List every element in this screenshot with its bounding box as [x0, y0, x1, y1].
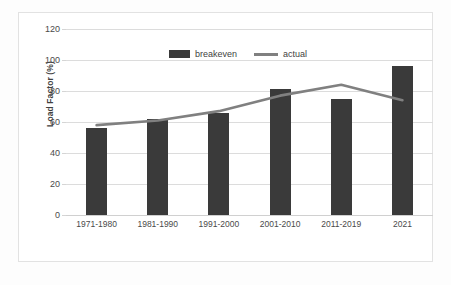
x-tick-label-2001-2010: 2001-2010: [260, 219, 301, 229]
gridline-0: [66, 215, 433, 216]
x-tick-label-1971-1980: 1971-1980: [76, 219, 117, 229]
y-tickmark-40: [62, 153, 66, 154]
y-tickmark-0: [62, 215, 66, 216]
bar-2001-2010: [270, 89, 291, 215]
gridline-80: [66, 91, 433, 92]
y-tick-label-0: 0: [55, 210, 60, 220]
chart-plot-frame: Load Factor (%) 120100806040200 1971-198…: [18, 12, 433, 262]
x-tick-label-2021: 2021: [393, 219, 412, 229]
y-tickmark-60: [62, 122, 66, 123]
y-tick-label-60: 60: [50, 117, 60, 127]
legend-item-actual: actual: [254, 49, 307, 59]
y-tick-label-100: 100: [45, 55, 60, 65]
legend-bar-swatch-icon: [169, 50, 190, 58]
bar-1971-1980: [86, 128, 107, 215]
y-tick-label-40: 40: [50, 148, 60, 158]
legend-label-breakeven: breakeven: [195, 49, 237, 59]
gridline-60: [66, 122, 433, 123]
x-tick-label-1981-1990: 1981-1990: [137, 219, 178, 229]
gridline-20: [66, 184, 433, 185]
y-tickmark-120: [62, 29, 66, 30]
chart-container: Load Factor (%) 120100806040200 1971-198…: [0, 0, 451, 285]
gridline-120: [66, 29, 433, 30]
x-tick-label-2011-2019: 2011-2019: [321, 219, 361, 229]
y-tickmark-80: [62, 91, 66, 92]
legend-line-swatch-icon: [254, 53, 278, 56]
bar-1981-1990: [147, 119, 168, 215]
y-tickmark-20: [62, 184, 66, 185]
gridline-40: [66, 153, 433, 154]
bar-2021: [392, 66, 413, 215]
legend-item-breakeven: breakeven: [169, 49, 237, 59]
bar-2011-2019: [331, 99, 352, 215]
bar-1991-2000: [208, 113, 229, 215]
legend-label-actual: actual: [283, 49, 307, 59]
y-tickmark-100: [62, 60, 66, 61]
y-tick-label-80: 80: [50, 86, 60, 96]
gridline-100: [66, 60, 433, 61]
x-tick-label-1991-2000: 1991-2000: [199, 219, 240, 229]
y-tick-label-120: 120: [45, 24, 60, 34]
x-axis-labels-group: 1971-19801981-19901991-20002001-20102011…: [66, 219, 433, 239]
y-tick-label-20: 20: [50, 179, 60, 189]
chart-legend: breakeven actual: [169, 49, 307, 59]
